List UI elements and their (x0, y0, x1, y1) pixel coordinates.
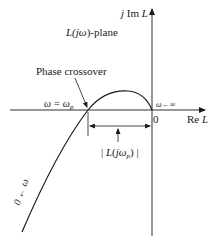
re-var: L (202, 113, 208, 125)
magnitude-label: | L(jωp) | (101, 147, 139, 160)
phase-crossover-label: Phase crossover (36, 66, 107, 77)
omega-p-label: ω = ωp (44, 99, 73, 111)
nyquist-curve (22, 91, 152, 232)
plane-suffix: )-plane (87, 26, 118, 38)
plane-label: L(jω)-plane (66, 27, 118, 38)
real-axis-label: Re L (187, 114, 208, 125)
plane-omega: ω (79, 26, 87, 38)
omega-p-sub: p (70, 103, 74, 111)
plane-prefix: L( (66, 26, 76, 38)
re-text: Re (187, 113, 202, 125)
omega-p-lhs: ω = ω (44, 98, 70, 109)
mag-close: | (134, 146, 139, 158)
im-text: Im (124, 7, 142, 19)
nyquist-diagram: j Im L L(jω)-plane Phase crossover ω = ω… (0, 0, 218, 245)
omega-infinity-label: ω←∞ (156, 101, 175, 109)
imaginary-axis-label: j Im L (121, 8, 148, 19)
origin-label: 0 (153, 114, 159, 125)
phase-crossover-pointer (75, 78, 87, 107)
im-var: L (142, 7, 148, 19)
mag-jw: jω (116, 146, 127, 158)
